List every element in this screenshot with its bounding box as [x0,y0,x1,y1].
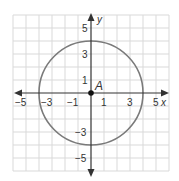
y-axis-label: y [96,14,103,25]
x-tick-m3: −3 [41,97,53,108]
x-axis-label: x [160,97,167,108]
x-tick-m1: −1 [67,97,79,108]
coordinate-plane: A x y −5 −3 −1 1 3 5 5 3 1 −3 −5 [0,0,179,181]
x-tick-m5: −5 [15,97,27,108]
x-tick-5: 5 [153,97,159,108]
y-tick-5: 5 [82,23,88,34]
y-tick-m5: −5 [75,153,87,164]
y-axis-up-arrow-icon [88,13,95,21]
x-tick-1: 1 [101,97,107,108]
x-tick-3: 3 [127,97,133,108]
y-tick-m3: −3 [75,127,87,138]
y-tick-3: 3 [82,49,88,60]
point-a-label: A [94,79,103,93]
point-a-marker [88,90,94,96]
y-axis-down-arrow-icon [88,169,95,177]
y-tick-1: 1 [82,75,88,86]
x-axis-right-arrow-icon [161,90,169,97]
x-axis-left-arrow-icon [14,90,22,97]
